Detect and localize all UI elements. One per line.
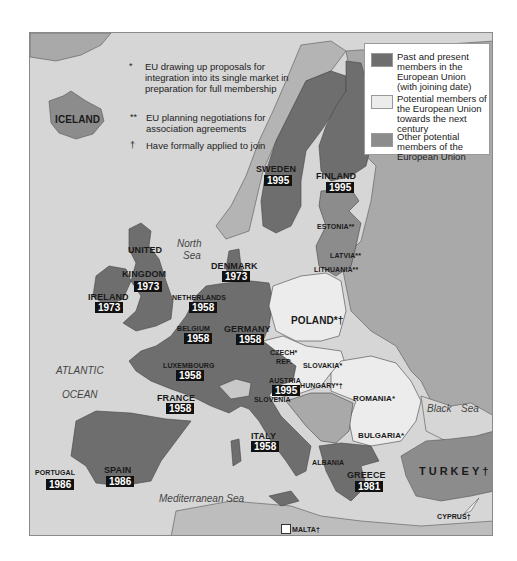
sea-label-black-2: Sea — [461, 403, 479, 414]
sea-label-atlantic-1: ATLANTIC — [56, 365, 104, 376]
sea-label-mediterranean: Mediterranean Sea — [159, 493, 244, 504]
map-legend: Past and present members in the European… — [364, 43, 490, 155]
label-finland: FINLAND — [316, 171, 356, 181]
sea-label-north-1: North — [177, 238, 201, 249]
label-czech-line2: REP. — [276, 357, 292, 367]
label-denmark: DENMARK — [211, 261, 258, 271]
sea-label-black-1: Black — [427, 403, 451, 414]
note-mark: ** — [130, 112, 137, 123]
year-greece: 1981 — [355, 481, 383, 492]
year-portugal: 1986 — [46, 479, 74, 490]
label-poland: POLAND*† — [291, 316, 343, 326]
year-luxembourg: 1958 — [176, 370, 204, 381]
legend-label: Past and present members in the European… — [397, 52, 487, 92]
legend-swatch-eu-member — [371, 53, 393, 67]
note-text: Have formally applied to join — [146, 140, 265, 151]
year-germany: 1958 — [236, 334, 264, 345]
year-sweden: 1995 — [264, 175, 292, 186]
label-latvia: LATVIA** — [330, 251, 361, 261]
label-spain: SPAIN — [104, 465, 131, 475]
label-albania: ALBANIA — [312, 458, 344, 468]
note-applied: † Have formally applied to join — [146, 140, 286, 151]
note-single-market: * EU drawing up proposals for integratio… — [145, 61, 305, 94]
label-uk-line2: KINGDOM — [122, 269, 166, 279]
label-ireland: IRELAND — [88, 292, 129, 302]
label-malta: MALTA† — [292, 525, 320, 535]
sea-label-atlantic-2: OCEAN — [62, 389, 98, 400]
legend-swatch-other-potential — [371, 133, 393, 147]
label-iceland: ICELAND — [55, 115, 100, 125]
note-mark: † — [130, 140, 135, 151]
label-portugal: PORTUGAL — [35, 468, 75, 478]
label-slovakia: SLOVAKIA* — [303, 361, 342, 371]
note-text: EU drawing up proposals for integration … — [145, 61, 289, 94]
label-estonia: ESTONIA** — [317, 222, 354, 232]
year-denmark: 1973 — [222, 271, 250, 282]
year-italy: 1958 — [251, 441, 279, 452]
label-cyprus: CYPRUS† — [437, 512, 471, 522]
year-finland: 1995 — [326, 182, 354, 193]
year-ireland: 1973 — [95, 302, 123, 313]
note-text: EU planning negotiations for association… — [146, 112, 265, 134]
label-slovenia: SLOVENIA — [254, 395, 291, 405]
legend-label: Other potential members of the European … — [397, 132, 487, 162]
year-uk: 1973 — [134, 281, 162, 292]
malta-marker — [281, 524, 291, 534]
note-association: ** EU planning negotiations for associat… — [146, 112, 281, 134]
label-germany: GERMANY — [224, 324, 271, 334]
label-hungary: HUNGARY*† — [300, 381, 343, 391]
label-turkey: TURKEY† — [419, 466, 491, 476]
sea-label-north-2: Sea — [183, 250, 201, 261]
label-italy: ITALY — [251, 431, 276, 441]
label-france: FRANCE — [157, 393, 195, 403]
note-mark: * — [129, 61, 133, 72]
legend-label: Potential members of the European Union … — [397, 94, 487, 134]
label-greece: GREECE — [347, 470, 386, 480]
year-netherlands: 1958 — [189, 302, 217, 313]
year-belgium: 1958 — [184, 333, 212, 344]
label-romania: ROMANIA* — [353, 394, 395, 404]
label-bulgaria: BULGARIA* — [358, 431, 404, 441]
label-sweden: SWEDEN — [256, 164, 296, 174]
label-lithuania: LITHUANIA** — [314, 265, 358, 275]
label-uk-line1: UNITED — [128, 245, 162, 255]
year-spain: 1986 — [106, 476, 134, 487]
year-france: 1958 — [166, 403, 194, 414]
legend-swatch-potential-member — [371, 95, 393, 109]
